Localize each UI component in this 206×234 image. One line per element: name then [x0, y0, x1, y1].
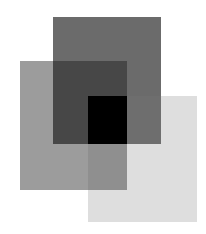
dark-light-overlap [127, 96, 161, 144]
diagram-canvas [0, 0, 206, 234]
medium-light-overlap [88, 144, 127, 190]
triple-overlap [88, 96, 127, 144]
